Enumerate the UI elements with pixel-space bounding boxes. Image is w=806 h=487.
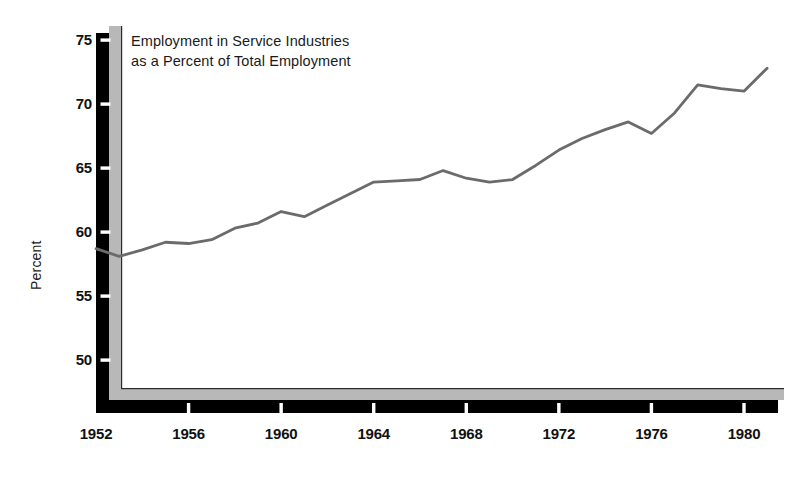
x-tick-label-1952: 1952: [66, 425, 126, 442]
y-tick-label-60: 60: [50, 223, 92, 240]
x-tick-label-1980: 1980: [714, 425, 774, 442]
tick-marks-group: [101, 38, 746, 413]
y-axis-title: Percent: [28, 240, 44, 290]
chart-container: Employment in Service Industries as a Pe…: [0, 0, 806, 487]
data-series-group: [96, 68, 767, 256]
x-tick-label-1960: 1960: [251, 425, 311, 442]
y-tick-label-50: 50: [50, 351, 92, 368]
y-tick-label-70: 70: [50, 95, 92, 112]
axis-frame: [96, 26, 784, 413]
y-tick-label-75: 75: [50, 31, 92, 48]
chart-title-line-2: as a Percent of Total Employment: [131, 51, 351, 71]
y-tick-label-65: 65: [50, 159, 92, 176]
chart-title: Employment in Service Industries as a Pe…: [131, 31, 351, 71]
chart-plot-area: [0, 0, 806, 487]
x-tick-label-1956: 1956: [159, 425, 219, 442]
x-tick-label-1968: 1968: [436, 425, 496, 442]
chart-title-line-1: Employment in Service Industries: [131, 31, 351, 51]
x-tick-label-1976: 1976: [621, 425, 681, 442]
y-tick-label-55: 55: [50, 287, 92, 304]
x-tick-label-1964: 1964: [344, 425, 404, 442]
x-tick-label-1972: 1972: [529, 425, 589, 442]
